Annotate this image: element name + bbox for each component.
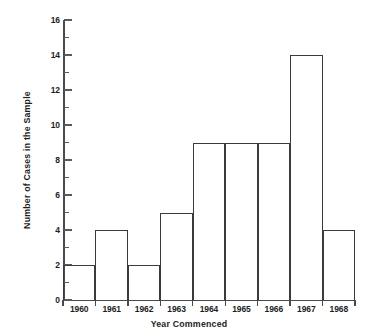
y-tick-major (64, 19, 72, 20)
y-tick-minor (64, 72, 69, 73)
y-tick-minor (64, 177, 69, 178)
bar (193, 143, 225, 301)
y-tick-minor (64, 212, 69, 213)
y-axis-title: Number of Cases in the Sample (22, 35, 32, 285)
y-tick-minor (64, 247, 69, 248)
y-tick-minor (64, 37, 69, 38)
bar (63, 265, 95, 300)
y-tick-major (64, 194, 72, 195)
bar (290, 55, 322, 300)
histogram-chart: 0246810121416 19601961196219631964196519… (0, 0, 378, 332)
y-tick-minor (64, 142, 69, 143)
x-tick-label: 1968 (316, 305, 362, 314)
y-tick-major (64, 159, 72, 160)
bar (95, 230, 127, 300)
y-tick-major (64, 229, 72, 230)
y-tick-major (64, 124, 72, 125)
bar (258, 143, 290, 301)
y-tick-major (64, 89, 72, 90)
bar (160, 213, 192, 301)
bar (225, 143, 257, 301)
x-axis-title: Year Commenced (0, 319, 378, 329)
y-axis-title-wrap: Number of Cases in the Sample (0, 0, 28, 332)
y-tick-major (64, 54, 72, 55)
bar (323, 230, 355, 300)
bar (128, 265, 160, 300)
y-tick-minor (64, 107, 69, 108)
